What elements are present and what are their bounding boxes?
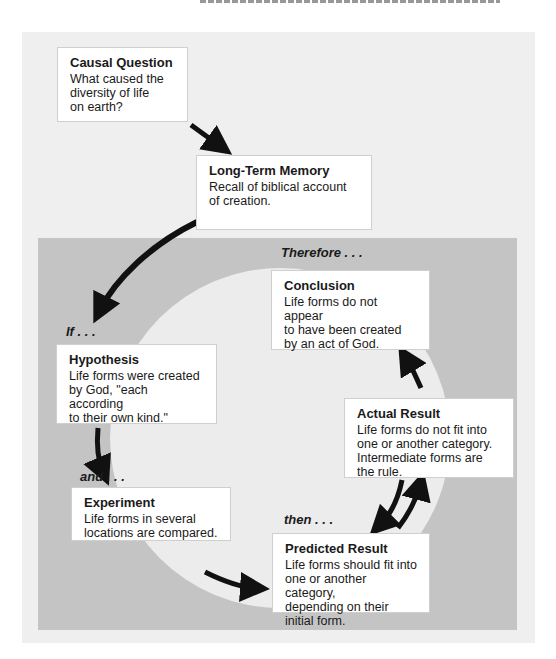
conclusion-box: Conclusion Life forms do not appear to h… [271,270,430,350]
actual-result-box: Actual Result Life forms do not fit into… [344,398,514,478]
and-label: and . . . [80,469,125,484]
long-term-memory-title: Long-Term Memory [209,164,359,178]
long-term-memory-box: Long-Term Memory Recall of biblical acco… [196,155,372,230]
hypothesis-text: Life forms were created by God, "each ac… [69,369,204,425]
conclusion-title: Conclusion [284,279,417,293]
predicted-result-box: Predicted Result Life forms should fit i… [272,533,430,613]
page-header-strip [200,0,500,3]
then-label: then . . . [284,512,333,527]
if-label: If . . . [66,324,96,339]
causal-question-text: What caused the diversity of life on ear… [70,72,175,114]
hypothesis-box: Hypothesis Life forms were created by Go… [56,344,217,424]
hypothesis-title: Hypothesis [69,353,204,367]
experiment-text: Life forms in several locations are comp… [84,512,218,540]
predicted-result-text: Life forms should fit into one or anothe… [285,558,417,628]
actual-result-text: Life forms do not fit into one or anothe… [357,423,501,479]
long-term-memory-text: Recall of biblical account of creation. [209,180,359,208]
predicted-result-title: Predicted Result [285,542,417,556]
therefore-label: Therefore . . . [281,245,363,260]
conclusion-text: Life forms do not appear to have been cr… [284,295,417,351]
actual-result-title: Actual Result [357,407,501,421]
experiment-box: Experiment Life forms in several locatio… [71,487,231,541]
causal-question-box: Causal Question What caused the diversit… [57,47,188,122]
causal-question-title: Causal Question [70,56,175,70]
experiment-title: Experiment [84,496,218,510]
